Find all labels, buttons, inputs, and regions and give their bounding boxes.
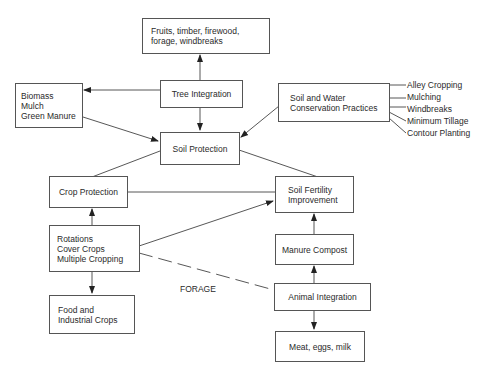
- node-line: Fruits, timber, firewood,: [151, 26, 261, 36]
- node-line: Multiple Cropping: [57, 254, 131, 264]
- node-animal-products: Meat, eggs, milk: [275, 331, 365, 362]
- line-soil-protection-to-crop-protection: [92, 151, 160, 177]
- node-line: Industrial Crops: [58, 315, 126, 325]
- arrow-rotations-to-soil-fertility: [139, 201, 273, 246]
- node-rotations: Rotations Cover Crops Multiple Cropping: [49, 225, 140, 272]
- node-biomass: Biomass Mulch Green Manure: [15, 83, 83, 128]
- node-soil-protection: Soil Protection: [160, 132, 240, 165]
- practice-windbreaks: Windbreaks: [407, 104, 452, 114]
- node-animal-integration: Animal Integration: [274, 283, 371, 311]
- node-line: Mulch: [21, 101, 74, 111]
- tick-contour-planting: [389, 118, 406, 133]
- node-line: Manure Compost: [282, 245, 347, 255]
- node-line: forage, windbreaks: [151, 36, 261, 46]
- practice-alley-cropping: Alley Cropping: [407, 80, 462, 90]
- node-line: Crop Protection: [59, 187, 118, 197]
- node-tree-products: Fruits, timber, firewood, forage, windbr…: [142, 18, 270, 54]
- node-manure-compost: Manure Compost: [275, 234, 354, 265]
- node-soil-fertility: Soil Fertility Improvement: [275, 176, 354, 213]
- practice-contour-planting: Contour Planting: [407, 128, 470, 138]
- node-line: Rotations: [57, 234, 131, 244]
- node-food-industrial-crops: Food and Industrial Crops: [49, 295, 135, 334]
- node-line: Green Manure: [21, 111, 74, 121]
- node-line: Biomass: [21, 91, 74, 101]
- node-line: Soil Protection: [173, 144, 228, 154]
- node-line: Soil Fertility: [288, 185, 345, 195]
- node-line: Food and: [58, 305, 126, 315]
- node-line: Animal Integration: [288, 292, 357, 302]
- arrow-soilwater-to-soil-protection: [241, 106, 279, 137]
- line-soil-protection-to-soil-fertility: [239, 150, 318, 177]
- node-line: Meat, eggs, milk: [289, 342, 351, 352]
- node-crop-protection: Crop Protection: [49, 176, 128, 208]
- node-line: Improvement: [288, 195, 345, 205]
- node-line: Cover Crops: [57, 244, 131, 254]
- node-tree-integration: Tree Integration: [160, 80, 243, 108]
- node-line: Conservation Practices: [290, 103, 381, 113]
- practice-minimum-tillage: Minimum Tillage: [407, 116, 468, 126]
- node-line: Soil and Water: [290, 93, 381, 103]
- node-line: Tree Integration: [172, 89, 232, 99]
- practice-mulching: Mulching: [407, 92, 441, 102]
- node-soil-water-conservation: Soil and Water Conservation Practices: [278, 83, 390, 122]
- arrow-biomass-to-soil-protection: [83, 117, 158, 141]
- edge-label-forage: FORAGE: [180, 284, 216, 294]
